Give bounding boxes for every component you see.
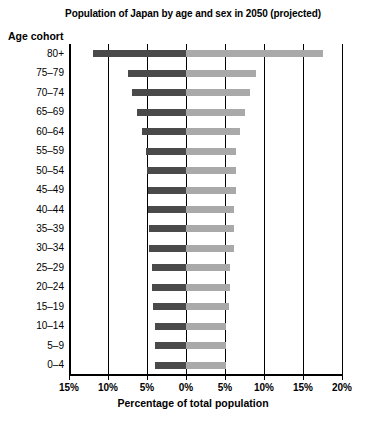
bar-male (93, 50, 186, 57)
bar-female (186, 342, 226, 349)
y-axis-tick-label: 25–29 (36, 262, 64, 273)
bar-row (69, 50, 342, 57)
x-axis-tick (147, 375, 148, 380)
bar-row (69, 206, 342, 213)
bar-female (186, 70, 256, 77)
chart-title: Population of Japan by age and sex in 20… (0, 8, 386, 19)
bar-male (142, 128, 186, 135)
bar-row (69, 167, 342, 174)
bar-row (69, 362, 342, 369)
bar-female (186, 323, 226, 330)
x-axis-tick-label: 0% (179, 382, 193, 393)
bar-row (69, 284, 342, 291)
bar-row (69, 225, 342, 232)
x-axis-line (69, 374, 342, 376)
bar-female (186, 128, 240, 135)
x-axis-tick-label: 10% (254, 382, 274, 393)
bar-female (186, 89, 250, 96)
bar-male (153, 303, 186, 310)
x-axis-tick-label: 15% (59, 382, 79, 393)
bar-female (186, 245, 234, 252)
gridline-20%-right (342, 44, 343, 375)
y-axis-tick-label: 30–34 (36, 242, 64, 253)
bar-row (69, 323, 342, 330)
bar-male (149, 225, 186, 232)
x-axis-tick (342, 375, 343, 380)
bar-male (147, 167, 186, 174)
bar-male (132, 89, 186, 96)
y-axis-tick-label: 50–54 (36, 165, 64, 176)
bar-male (148, 206, 186, 213)
y-axis-tick-label: 20–24 (36, 281, 64, 292)
y-axis-tick-label: 60–64 (36, 126, 64, 137)
plot-area: 15%10%5%0%5%10%15%20% (69, 44, 342, 375)
bar-female (186, 50, 323, 57)
bar-row (69, 148, 342, 155)
bar-row (69, 109, 342, 116)
y-axis-tick-label: 75–79 (36, 67, 64, 78)
bar-male (137, 109, 186, 116)
x-axis-tick-label: 20% (332, 382, 352, 393)
bar-female (186, 109, 245, 116)
bar-row (69, 342, 342, 349)
x-axis-tick-label: 15% (293, 382, 313, 393)
y-axis-title: Age cohort (8, 30, 63, 42)
bar-female (186, 362, 226, 369)
bar-male (155, 323, 186, 330)
bar-female (186, 225, 234, 232)
bar-row (69, 264, 342, 271)
population-pyramid-chart: Population of Japan by age and sex in 20… (0, 0, 386, 421)
x-axis-tick (225, 375, 226, 380)
x-axis-title: Percentage of total population (0, 397, 386, 409)
x-axis-tick (108, 375, 109, 380)
y-axis-tick-label: 45–49 (36, 184, 64, 195)
y-axis-tick-label: 10–14 (36, 320, 64, 331)
y-axis-tick-label: 65–69 (36, 106, 64, 117)
bar-male (146, 148, 186, 155)
bar-female (186, 187, 236, 194)
bar-row (69, 245, 342, 252)
bar-row (69, 89, 342, 96)
bar-female (186, 206, 234, 213)
y-axis-tick-labels: 80+75–7970–7465–6960–6455–5950–5445–4940… (0, 44, 64, 375)
x-axis-tick (69, 375, 70, 380)
y-axis-tick-label: 70–74 (36, 87, 64, 98)
y-axis-tick-label: 5–9 (47, 340, 64, 351)
x-axis-tick (303, 375, 304, 380)
bar-male (149, 245, 186, 252)
y-axis-tick-label: 15–19 (36, 301, 64, 312)
x-axis-tick (186, 375, 187, 380)
bar-male (155, 362, 186, 369)
bar-female (186, 264, 230, 271)
y-axis-tick-label: 80+ (47, 48, 64, 59)
x-axis-tick-label: 5% (140, 382, 154, 393)
bar-row (69, 128, 342, 135)
bar-row (69, 187, 342, 194)
bar-female (186, 303, 229, 310)
bar-female (186, 284, 230, 291)
y-axis-tick-label: 0–4 (47, 359, 64, 370)
bar-male (152, 264, 186, 271)
x-axis-tick-label: 5% (218, 382, 232, 393)
bar-male (155, 342, 186, 349)
x-axis-tick-label: 10% (98, 382, 118, 393)
bar-female (186, 167, 236, 174)
bar-male (128, 70, 186, 77)
y-axis-tick-label: 55–59 (36, 145, 64, 156)
bar-row (69, 303, 342, 310)
bar-row (69, 70, 342, 77)
y-axis-tick-label: 35–39 (36, 223, 64, 234)
y-axis-tick-label: 40–44 (36, 204, 64, 215)
x-axis-tick (264, 375, 265, 380)
bar-male (148, 187, 186, 194)
bar-female (186, 148, 236, 155)
bar-male (152, 284, 186, 291)
